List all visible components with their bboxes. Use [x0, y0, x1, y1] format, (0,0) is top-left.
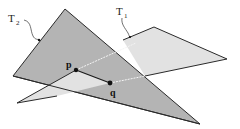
triangle-intersection-diagram: p q T 2 T 1	[0, 0, 240, 129]
label-t1-subscript: 1	[124, 12, 128, 20]
point-p	[74, 68, 78, 72]
label-p: p	[66, 59, 72, 70]
triangle-t1-upper-part	[123, 27, 227, 76]
label-t2: T	[8, 12, 15, 24]
t2-leader-line	[24, 20, 39, 40]
label-t1: T	[116, 5, 123, 17]
t1-leader-dot	[129, 36, 131, 38]
point-q	[108, 81, 113, 86]
t1-leader-line	[122, 18, 130, 37]
t2-leader-dot	[38, 39, 40, 41]
label-q: q	[110, 87, 116, 98]
label-t2-subscript: 2	[16, 19, 20, 27]
